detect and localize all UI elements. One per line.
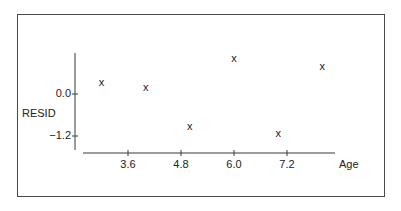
data-point-marker: x — [99, 76, 105, 88]
data-points: xxxxxx — [99, 52, 326, 139]
data-point-marker: x — [275, 127, 281, 139]
x-axis-label: Age — [339, 158, 359, 170]
x-tick-label-0: 3.6 — [113, 158, 143, 170]
data-point-marker: x — [320, 60, 326, 72]
plot-area: xxxxxx — [0, 0, 401, 211]
y-tick-label-0: 0.0 — [31, 87, 71, 99]
x-tick-label-1: 4.8 — [166, 158, 196, 170]
data-point-marker: x — [231, 52, 237, 64]
y-tick-label-1: −1.2 — [31, 129, 71, 141]
x-tick-label-2: 6.0 — [219, 158, 249, 170]
x-tick-label-3: 7.2 — [272, 158, 302, 170]
y-axis-label: RESID — [22, 107, 56, 119]
data-point-marker: x — [143, 81, 149, 93]
data-point-marker: x — [187, 120, 193, 132]
